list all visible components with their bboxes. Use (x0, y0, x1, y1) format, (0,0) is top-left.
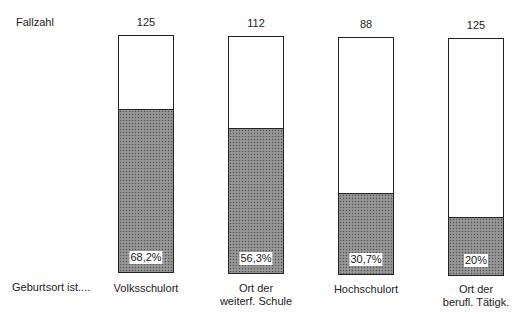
category-line: berufl. Tätigk. (426, 296, 521, 309)
bar-fill: 30,7% (339, 193, 393, 274)
geburtsort-label: Geburtsort ist.... (12, 281, 90, 293)
bar-fill: 56,3% (229, 128, 283, 273)
category-label: Volksschulort (96, 282, 196, 295)
category-line: Volksschulort (96, 282, 196, 295)
category-label: Hochschulort (316, 283, 416, 296)
percent-label: 20% (464, 254, 488, 267)
bar: 68,2% (118, 35, 174, 273)
bar-fill: 68,2% (119, 109, 173, 272)
bar: 56,3% (228, 36, 284, 274)
category-line: Hochschulort (316, 283, 416, 296)
percent-label: 68,2% (129, 251, 162, 264)
percent-label: 30,7% (349, 253, 382, 266)
count-label: 88 (338, 18, 394, 30)
bar-fill: 20% (449, 217, 503, 275)
category-label: Ort der weiterf. Schule (206, 282, 306, 308)
bar: 30,7% (338, 37, 394, 275)
count-label: 125 (118, 16, 174, 28)
count-label: 112 (228, 17, 284, 29)
percent-label: 56,3% (239, 252, 272, 265)
category-line: Ort der (206, 282, 306, 295)
category-label: Ort der berufl. Tätigk. (426, 283, 521, 309)
category-line: Ort der (426, 283, 521, 296)
fallzahl-label: Fallzahl (16, 16, 54, 28)
count-label: 125 (448, 19, 504, 31)
bar: 20% (448, 38, 504, 276)
category-line: weiterf. Schule (206, 295, 306, 308)
